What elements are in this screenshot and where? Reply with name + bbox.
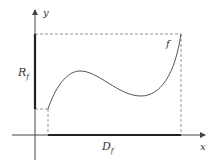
range-label: Rf	[17, 66, 30, 81]
dashed-guides	[35, 34, 181, 135]
x-axis-label: x	[200, 141, 206, 152]
y-axis-label: y	[42, 7, 49, 18]
function-label: f	[165, 38, 172, 49]
domain-label: Df	[101, 140, 115, 155]
function-diagram: y x f Rf Df	[0, 0, 215, 162]
function-curve	[48, 34, 181, 109]
